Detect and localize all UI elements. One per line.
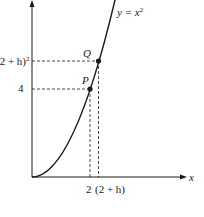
curve-label: y = x2 [116, 6, 144, 18]
parabola-diagram: y = x2 Q P 4 (2 + h)2 2 (2 + h) x [0, 0, 204, 217]
x-tick-2-label: 2 [86, 183, 92, 195]
y-tick-q-label: (2 + h)2 [0, 55, 30, 68]
y-axis-arrow-icon [30, 0, 35, 7]
parabola-curve [32, 0, 115, 177]
point-q-label: Q [83, 47, 91, 59]
x-tick-2h-label: (2 + h) [95, 183, 125, 196]
point-q [96, 58, 101, 63]
point-p [87, 86, 92, 91]
y-tick-4-label: 4 [18, 82, 24, 94]
point-p-label: P [81, 74, 89, 86]
x-axis-arrow-icon [180, 175, 187, 180]
x-axis-label: x [188, 171, 194, 183]
